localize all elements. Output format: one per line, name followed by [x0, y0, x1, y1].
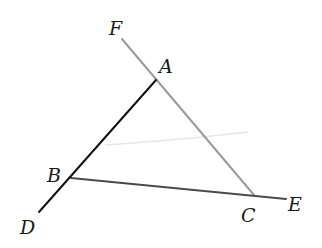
segment-fc: [122, 39, 254, 195]
label-a: A: [157, 55, 173, 77]
label-f: F: [108, 17, 123, 39]
faint-arc-artifact: [105, 132, 248, 145]
triangle-diagram: F A B D C E: [0, 0, 322, 248]
label-c: C: [241, 204, 256, 226]
label-b: B: [46, 164, 61, 186]
label-d: D: [19, 216, 35, 238]
segment-be: [71, 178, 286, 199]
segment-da: [39, 80, 156, 212]
label-e: E: [287, 193, 302, 215]
